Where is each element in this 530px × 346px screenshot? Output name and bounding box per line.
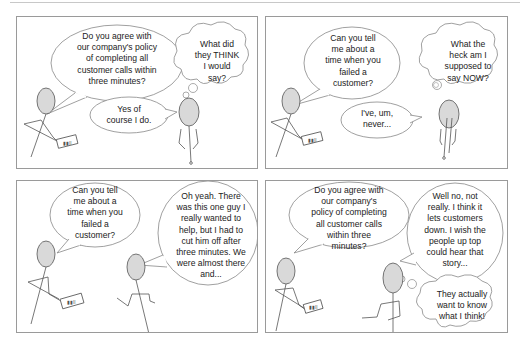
candidate-figure	[439, 100, 459, 159]
candidate-figure	[362, 263, 403, 333]
candidate-thought-4: They actually want to know what I think!	[426, 289, 498, 323]
comic-panel-3: ▮▮ǀǀ Can you tell me about a time when y…	[16, 180, 258, 333]
candidate-thought-2: What the heck am I supposed to say NOW?	[434, 39, 502, 84]
interviewer-speech-3: Can you tell me about a time when you fa…	[57, 185, 133, 241]
candidate-thought-1: What did they THINK I would say?	[187, 39, 247, 84]
top-rule	[10, 2, 520, 3]
comic-panel-1: ▮▮ǀǀ Do you agree with our company's pol…	[16, 16, 258, 169]
comic-panel-2: ▮▮ǀǀ Can you tell me about a time when y…	[265, 16, 508, 169]
candidate-speech-3: Oh yeah. There was this one guy I really…	[169, 191, 253, 281]
candidate-speech-1: Yes of course I do.	[95, 104, 163, 126]
interviewer-speech-4: Do you agree with our company's policy o…	[302, 185, 396, 252]
svg-text:▮▮ǀǀ: ▮▮ǀǀ	[63, 140, 72, 146]
interviewer-speech-1: Do you agree with our company's policy o…	[61, 31, 173, 87]
svg-text:▮▮ǀǀ: ▮▮ǀǀ	[67, 299, 76, 305]
interviewer-figure: ▮▮ǀǀ	[275, 258, 323, 331]
interviewer-speech-2: Can you tell me about a time when you fa…	[310, 33, 396, 89]
svg-text:▮▮ǀǀ: ▮▮ǀǀ	[309, 304, 318, 310]
svg-text:▮▮ǀǀ: ▮▮ǀǀ	[308, 137, 317, 143]
interviewer-figure: ▮▮ǀǀ	[28, 241, 84, 324]
candidate-speech-2: I've, um, never...	[346, 108, 408, 130]
candidate-figure	[179, 98, 199, 164]
comic-panel-4: ▮▮ǀǀ Do you agree with our company's pol…	[265, 180, 508, 333]
candidate-speech-4: Well no, not really. I think it lets cus…	[418, 191, 492, 269]
